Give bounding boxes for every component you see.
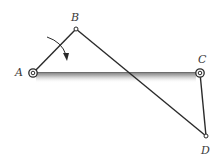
label-c: C bbox=[198, 54, 206, 65]
label-d: D bbox=[201, 145, 210, 156]
linkage-diagram: A B C D bbox=[0, 0, 224, 162]
moment-arrow-icon bbox=[47, 37, 69, 61]
linkage-drawing bbox=[0, 0, 224, 162]
pin-a-icon bbox=[29, 69, 37, 77]
link-cd bbox=[200, 73, 206, 136]
joint-d-icon bbox=[204, 134, 208, 138]
label-b: B bbox=[71, 12, 79, 23]
joint-b-icon bbox=[74, 27, 78, 31]
ground-link-ac bbox=[36, 72, 196, 83]
pin-c-icon bbox=[196, 69, 204, 77]
label-a: A bbox=[15, 67, 23, 78]
link-ab bbox=[33, 29, 76, 73]
